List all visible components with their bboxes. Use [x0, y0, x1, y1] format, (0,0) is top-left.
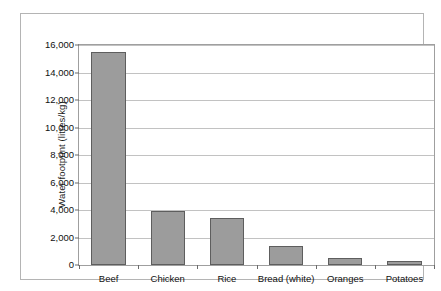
gridline: [79, 155, 434, 156]
y-tick-mark: [75, 155, 79, 156]
x-tick-mark: [138, 265, 139, 269]
x-tick-label: Chicken: [151, 273, 185, 284]
bar: [387, 261, 421, 265]
bar: [91, 52, 125, 265]
x-tick-label: Rice: [217, 273, 236, 284]
y-tick-mark: [75, 127, 79, 128]
x-tick-mark: [434, 265, 435, 269]
bar: [269, 246, 303, 265]
x-tick-mark: [257, 265, 258, 269]
gridline: [79, 45, 434, 46]
y-tick-mark: [75, 100, 79, 101]
bar: [151, 211, 185, 265]
y-tick-mark: [75, 210, 79, 211]
gridline: [79, 100, 434, 101]
y-tick-label: 14,000: [45, 68, 74, 78]
bar: [328, 258, 362, 265]
y-tick-label: 0: [69, 260, 74, 270]
x-tick-mark: [197, 265, 198, 269]
plot-area: 02,0004,0006,0008,00010,00012,00014,0001…: [78, 44, 435, 266]
y-tick-label: 4,000: [50, 205, 74, 215]
y-tick-mark: [75, 45, 79, 46]
gridline: [79, 238, 434, 239]
x-tick-mark: [316, 265, 317, 269]
gridline: [79, 210, 434, 211]
x-tick-label: Beef: [99, 273, 119, 284]
y-tick-label: 10,000: [45, 123, 74, 133]
x-tick-label: Potatoes: [386, 273, 424, 284]
y-tick-label: 16,000: [45, 40, 74, 50]
y-tick-label: 12,000: [45, 95, 74, 105]
y-tick-mark: [75, 182, 79, 183]
bar: [210, 218, 244, 265]
gridline: [79, 128, 434, 129]
x-tick-label: Oranges: [327, 273, 363, 284]
y-tick-label: 2,000: [50, 233, 74, 243]
x-tick-mark: [375, 265, 376, 269]
x-tick-mark: [79, 265, 80, 269]
y-tick-label: 6,000: [50, 178, 74, 188]
x-tick-label: Bread (white): [258, 273, 315, 284]
y-tick-label: 8,000: [50, 150, 74, 160]
chart-frame: Water footprint (litres/kg) 02,0004,0006…: [20, 13, 424, 280]
y-tick-mark: [75, 72, 79, 73]
gridline: [79, 73, 434, 74]
gridline: [79, 183, 434, 184]
y-tick-mark: [75, 237, 79, 238]
